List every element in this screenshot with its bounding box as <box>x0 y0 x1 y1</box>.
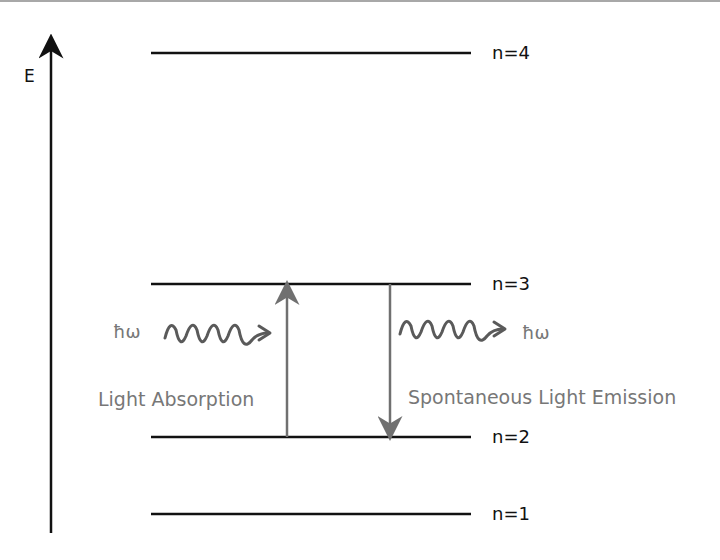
energy-levels <box>151 53 471 514</box>
energy-level-diagram <box>0 0 720 560</box>
energy-axis-label: E <box>24 68 35 85</box>
level-label-n2: n=2 <box>492 428 530 446</box>
level-label-n3: n=3 <box>492 275 530 293</box>
absorption-photon-label: ħω <box>113 323 141 341</box>
emission-photon-label: ħω <box>522 324 550 342</box>
incoming-photon-wave-icon <box>165 325 270 344</box>
absorption-label: Light Absorption <box>98 390 254 409</box>
outgoing-photon-wave-icon <box>400 321 505 340</box>
level-label-n1: n=1 <box>492 505 530 523</box>
level-label-n4: n=4 <box>492 44 530 62</box>
emission-label: Spontaneous Light Emission <box>408 388 676 407</box>
